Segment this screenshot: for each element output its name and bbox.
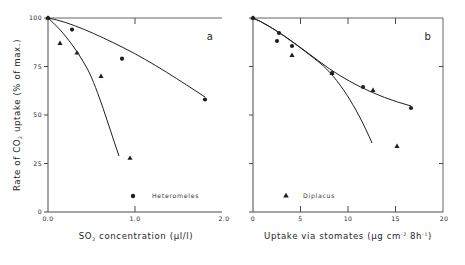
panel-b-y-ticks bbox=[249, 18, 443, 212]
panel-b-curve-diplacus bbox=[253, 18, 372, 143]
data-point bbox=[289, 53, 294, 57]
x-tick-label-a-0: 0.0 bbox=[42, 215, 53, 222]
data-point bbox=[70, 28, 74, 32]
x-tick-label-a-2: 2.0 bbox=[218, 215, 229, 222]
panel-a-label: a bbox=[207, 31, 214, 42]
legend-label-diplacus: Diplacus bbox=[303, 192, 335, 200]
data-point bbox=[203, 97, 207, 101]
panel-a-x-axis-title: SO2 concentration (µl/l) bbox=[79, 231, 193, 242]
panel-b-axis-frame bbox=[253, 18, 443, 212]
data-point bbox=[370, 88, 375, 92]
data-point bbox=[127, 155, 132, 159]
x-tick-label-b-0: 0 bbox=[251, 215, 255, 222]
panel-b-x-axis-title: Uptake via stomates (µg cm-2 8h-1) bbox=[264, 231, 432, 241]
panel-a-points-diplacus bbox=[45, 15, 132, 160]
data-point bbox=[409, 106, 413, 110]
y-tick-label-25: 25 bbox=[33, 160, 42, 167]
data-point bbox=[275, 39, 279, 43]
data-point bbox=[290, 44, 294, 48]
legend-label-heteromeles: Heteromeles bbox=[152, 192, 199, 199]
legend-diplacus: Diplacus bbox=[283, 192, 335, 200]
panel-b-label: b bbox=[425, 31, 432, 42]
legend-heteromeles: Heteromeles bbox=[131, 192, 199, 199]
chart-svg: 0 25 50 75 100 0.0 1.0 2.0 bbox=[0, 0, 465, 265]
x-tick-label-a-1: 1.0 bbox=[129, 215, 140, 222]
data-point bbox=[120, 57, 124, 61]
x-tick-label-b-10: 10 bbox=[344, 215, 353, 222]
panel-a-curve-diplacus bbox=[48, 18, 119, 156]
data-point bbox=[57, 41, 62, 45]
y-tick-label-100: 100 bbox=[29, 14, 42, 21]
legend-marker-triangle-icon bbox=[283, 193, 289, 198]
panel-a-y-ticks bbox=[44, 18, 48, 212]
y-axis-title: Rate of CO2 uptake (% of max.) bbox=[12, 39, 23, 191]
data-point bbox=[98, 74, 103, 78]
panel-b-points-diplacus bbox=[250, 15, 399, 148]
y-tick-label-0: 0 bbox=[38, 208, 42, 215]
panel-a-points-heteromeles bbox=[46, 16, 207, 102]
legend-marker-circle-icon bbox=[131, 194, 135, 198]
data-point bbox=[277, 31, 281, 35]
figure-container: 0 25 50 75 100 0.0 1.0 2.0 bbox=[0, 0, 465, 265]
y-tick-label-75: 75 bbox=[33, 63, 42, 70]
y-tick-label-50: 50 bbox=[33, 111, 42, 118]
panel-b: 0 5 10 15 20 bbox=[249, 15, 448, 241]
data-point bbox=[361, 85, 365, 89]
x-tick-label-b-5: 5 bbox=[298, 215, 302, 222]
x-tick-label-b-20: 20 bbox=[440, 215, 449, 222]
x-tick-label-b-15: 15 bbox=[391, 215, 400, 222]
panel-b-x-ticks bbox=[301, 18, 396, 212]
data-point bbox=[394, 144, 399, 148]
panel-a: 0 25 50 75 100 0.0 1.0 2.0 bbox=[29, 14, 230, 242]
data-point bbox=[74, 50, 79, 54]
